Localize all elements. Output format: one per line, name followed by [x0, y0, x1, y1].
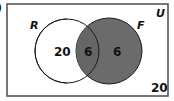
f-only-value: 6 [113, 45, 121, 59]
intersection-value: 6 [84, 45, 92, 59]
universe-label: U [156, 7, 165, 20]
venn-diagram: ) R F U 20 6 6 20 [0, 0, 174, 101]
set-f-label: F [137, 19, 145, 32]
r-only-value: 20 [54, 45, 71, 59]
outside-value: 20 [151, 81, 168, 95]
partial-question-label: ) [0, 2, 2, 13]
set-r-label: R [30, 19, 38, 32]
venn-svg: R F U 20 6 6 20 [0, 0, 174, 101]
